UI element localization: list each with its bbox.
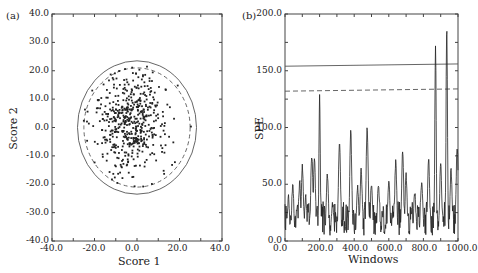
data-point <box>143 131 145 133</box>
data-point <box>123 163 125 165</box>
data-point <box>115 165 117 167</box>
data-point <box>137 149 139 151</box>
data-point <box>115 119 117 121</box>
data-point <box>138 150 140 152</box>
data-point <box>117 131 119 133</box>
data-point <box>129 144 131 146</box>
data-point <box>146 139 148 141</box>
data-point <box>172 141 174 143</box>
data-point <box>147 146 149 148</box>
data-point <box>149 106 151 108</box>
data-point <box>131 109 133 111</box>
data-point <box>127 143 129 145</box>
data-point <box>151 80 153 82</box>
data-point <box>114 126 116 128</box>
data-point <box>133 146 135 148</box>
data-point <box>137 76 139 78</box>
data-point <box>136 141 138 143</box>
data-point <box>113 151 115 153</box>
data-point <box>118 70 120 72</box>
data-point <box>155 134 157 136</box>
data-point <box>97 99 99 101</box>
data-point <box>136 138 138 140</box>
data-point <box>111 110 113 112</box>
data-point <box>133 94 135 96</box>
data-point <box>157 117 159 119</box>
data-point <box>111 179 113 181</box>
data-point <box>148 88 150 90</box>
data-point <box>115 103 117 105</box>
data-point <box>140 111 142 113</box>
data-point <box>136 121 138 123</box>
data-point <box>103 84 105 86</box>
data-point <box>121 130 123 132</box>
data-point <box>88 123 90 125</box>
data-point <box>107 113 109 115</box>
data-point <box>131 176 133 178</box>
data-point <box>122 109 124 111</box>
data-point <box>143 137 145 139</box>
data-point <box>143 122 145 124</box>
data-point <box>126 81 128 83</box>
data-point <box>124 87 126 89</box>
data-point <box>128 172 130 174</box>
data-point <box>136 130 138 132</box>
data-point <box>157 102 159 104</box>
data-point <box>150 87 152 89</box>
data-point <box>123 108 125 110</box>
data-point <box>116 136 118 138</box>
data-point <box>152 144 154 146</box>
data-point <box>112 107 114 109</box>
data-point <box>136 87 138 89</box>
data-point <box>104 136 106 138</box>
data-point <box>147 107 149 109</box>
data-point <box>157 114 159 116</box>
data-point <box>121 107 123 109</box>
data-point <box>117 114 119 116</box>
data-point <box>134 185 136 187</box>
data-point <box>113 110 115 112</box>
data-point <box>104 111 106 113</box>
data-point <box>135 133 137 135</box>
data-point <box>137 114 139 116</box>
data-point <box>146 66 148 68</box>
data-point <box>162 111 164 113</box>
data-point <box>113 79 115 81</box>
data-point <box>132 72 134 74</box>
data-point <box>142 186 144 188</box>
data-point <box>137 156 139 158</box>
data-point <box>122 99 124 101</box>
data-point <box>112 121 114 123</box>
data-point <box>138 69 140 71</box>
data-point <box>99 107 101 109</box>
data-point <box>125 135 127 137</box>
data-point <box>134 122 136 124</box>
data-point <box>126 131 128 133</box>
data-point <box>145 134 147 136</box>
data-point <box>126 133 128 135</box>
data-point <box>126 119 128 121</box>
data-point <box>127 161 129 163</box>
data-point <box>144 125 146 127</box>
data-point <box>152 71 154 73</box>
data-point <box>102 153 104 155</box>
data-point <box>190 126 192 128</box>
data-point <box>115 112 117 114</box>
data-point <box>123 115 125 117</box>
data-point <box>137 153 139 155</box>
data-point <box>160 125 162 127</box>
data-point <box>125 100 127 102</box>
data-point <box>144 85 146 87</box>
data-point <box>114 131 116 133</box>
data-point <box>141 127 143 129</box>
data-point <box>149 80 151 82</box>
data-point <box>119 109 121 111</box>
data-point <box>140 93 142 95</box>
data-point <box>127 158 129 160</box>
data-point <box>141 79 143 81</box>
data-point <box>123 136 125 138</box>
data-point <box>96 112 98 114</box>
data-point <box>162 115 164 117</box>
data-point <box>137 135 139 137</box>
data-point <box>137 104 139 106</box>
